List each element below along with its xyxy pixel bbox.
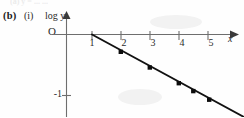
x-tick-label-5: 5 [209,37,214,48]
scan-smudge [118,89,162,105]
x-tick-label-2: 2 [122,37,127,48]
data-point [191,89,195,93]
data-point [148,65,152,69]
scan-smudge [150,15,202,29]
series-line [92,35,244,118]
figure-canvas: (a) y = ... ... (b) (i) log y O x 1 2 [0,0,244,117]
y-tick-label-minus-1: -1 [44,88,62,99]
x-axis-arrowhead [230,31,239,39]
x-tick-label-4: 4 [180,37,185,48]
x-tick-label-3: 3 [151,37,156,48]
plot-area [0,0,244,117]
data-point [119,50,123,54]
data-point [207,98,211,102]
x-tick-label-1: 1 [90,37,95,48]
y-axis-arrowhead [63,11,71,19]
data-point [177,81,181,85]
